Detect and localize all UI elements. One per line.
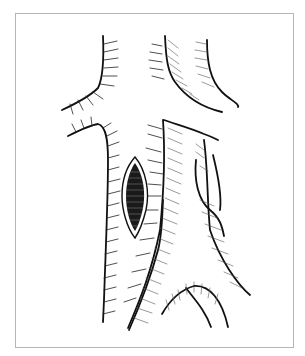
back-vessel [129,36,250,330]
front-vessel [62,36,164,328]
vessel-illustration [0,0,305,356]
incision [122,157,148,238]
